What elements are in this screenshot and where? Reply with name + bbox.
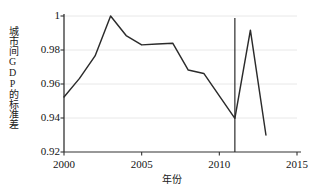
data-series-line: [64, 16, 266, 135]
x-axis-title: 年份: [0, 171, 319, 186]
axis-tick-marks: [61, 16, 298, 156]
chart-figure: 城市间GDP的标准差 0.920.940.960.981 20002005201…: [0, 0, 319, 189]
series-path: [64, 16, 266, 135]
plot-area: [0, 0, 319, 189]
gridlines: [64, 16, 297, 118]
x-axis-title-text: 年份: [162, 171, 182, 186]
